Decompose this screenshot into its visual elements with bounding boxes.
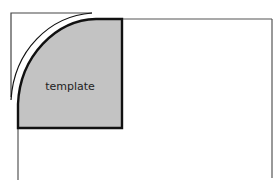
template-label: template xyxy=(45,80,95,93)
diagram-canvas: template xyxy=(0,0,278,191)
template-shape xyxy=(18,19,122,128)
